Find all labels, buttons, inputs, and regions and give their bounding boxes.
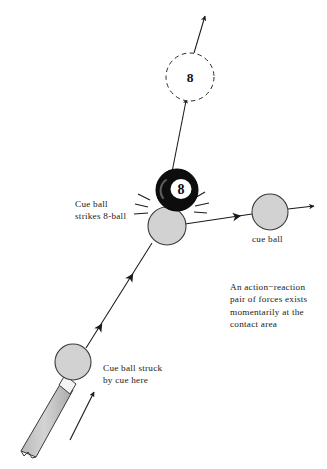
cue-ball-start-circle: [55, 344, 91, 380]
impact-line-r2: [195, 203, 209, 206]
cue-ball-start: [55, 344, 91, 380]
cue-ball-incoming-arrow-1: [94, 321, 106, 333]
eight-ball-future: 8: [166, 53, 214, 101]
cue-ball-after: [252, 194, 288, 230]
cue-ball-incoming-path: [86, 243, 152, 348]
eight-ball-future-number: 8: [187, 70, 194, 85]
physics-diagram: 8: [0, 0, 327, 469]
cue-ball-after-circle: [252, 194, 288, 230]
impact-line-r3: [194, 212, 207, 213]
cue-ball-outgoing-path: [185, 206, 314, 224]
cue-ball-incoming-arrow-2: [125, 271, 137, 283]
cue-stick-motion-arrow: [70, 392, 94, 440]
caption-action-reaction: An action−reaction pair of forces exists…: [230, 281, 322, 331]
cue-stick-motion-line: [70, 392, 94, 440]
caption-cue-ball-strikes-8-ball: Cue ball strikes 8-ball: [75, 198, 157, 223]
cue-ball-outgoing-line-left: [185, 214, 252, 224]
eight-ball-path-lower: [172, 101, 186, 172]
cue-ball-incoming-line: [86, 243, 152, 348]
caption-cue-ball-struck-by-cue: Cue ball struck by cue here: [103, 362, 193, 387]
cue-ball-outgoing-line-right: [288, 206, 314, 209]
eight-ball-contact-number: 8: [178, 182, 185, 197]
cue-stick: [21, 375, 76, 458]
caption-cue-ball: cue ball: [252, 233, 312, 245]
eight-ball-contact: 8: [156, 169, 198, 211]
eight-ball-path-upper: [194, 16, 205, 53]
cue-stick-shaft: [21, 381, 73, 457]
